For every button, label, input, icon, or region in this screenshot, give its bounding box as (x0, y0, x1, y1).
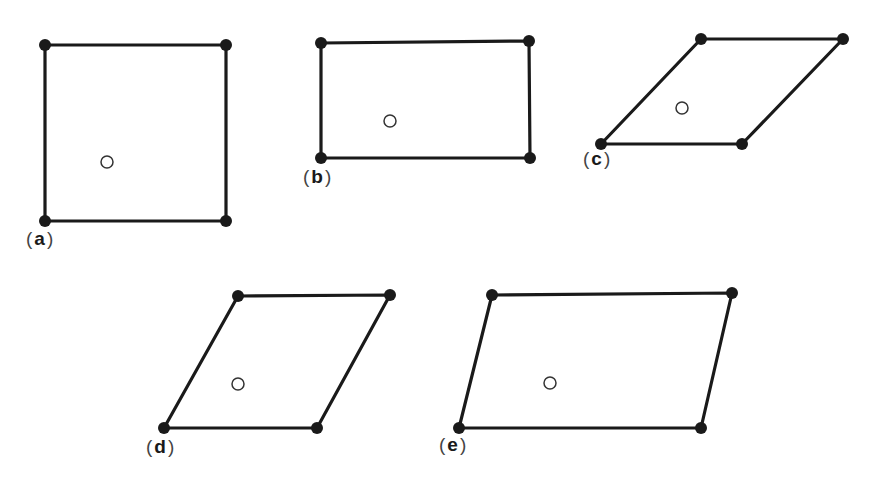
lattice-point-icon (220, 39, 232, 51)
lattice-point-icon (158, 422, 170, 434)
cell-outline (601, 39, 843, 144)
cell-label-c: (c) (583, 148, 612, 170)
cell-label-e: (e) (439, 434, 468, 456)
cell-outline (459, 293, 732, 428)
unit-cells-diagram (0, 0, 875, 478)
label-letter: d (154, 436, 168, 457)
open-circle-icon (384, 115, 396, 127)
open-circle-icon (544, 377, 556, 389)
lattice-point-icon (39, 39, 51, 51)
lattice-point-icon (384, 289, 396, 301)
cell-label-a: (a) (26, 228, 55, 250)
lattice-point-icon (837, 33, 849, 45)
cell-outline (321, 41, 530, 158)
cell-outline (164, 295, 390, 428)
lattice-point-icon (453, 422, 465, 434)
lattice-point-icon (524, 152, 536, 164)
cell-label-d: (d) (146, 436, 176, 458)
lattice-point-icon (315, 152, 327, 164)
unit-cell-b (315, 35, 536, 164)
lattice-point-icon (39, 215, 51, 227)
lattice-point-icon (736, 138, 748, 150)
unit-cell-d (158, 289, 396, 434)
lattice-point-icon (726, 287, 738, 299)
lattice-point-icon (311, 422, 323, 434)
lattice-point-icon (523, 35, 535, 47)
unit-cell-a (39, 39, 232, 227)
label-letter: b (311, 166, 325, 187)
cell-label-b: (b) (303, 166, 333, 188)
label-letter: e (447, 434, 460, 455)
lattice-point-icon (695, 422, 707, 434)
lattice-point-icon (486, 289, 498, 301)
lattice-point-icon (232, 290, 244, 302)
cell-outline (45, 45, 226, 221)
unit-cell-c (595, 33, 849, 150)
label-letter: a (34, 228, 47, 249)
label-letter: c (591, 148, 604, 169)
lattice-point-icon (315, 37, 327, 49)
open-circle-icon (232, 378, 244, 390)
open-circle-icon (676, 102, 688, 114)
open-circle-icon (101, 156, 113, 168)
lattice-point-icon (695, 33, 707, 45)
unit-cell-e (453, 287, 738, 434)
lattice-point-icon (220, 215, 232, 227)
